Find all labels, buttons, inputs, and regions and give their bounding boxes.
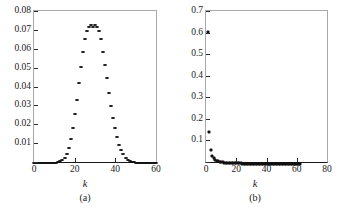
plot-frame-a: 0.010.020.030.040.050.060.070.08 0204060 (33, 10, 157, 163)
y-tick-mark (34, 105, 38, 106)
y-tick-label: 0.7 (191, 6, 203, 16)
x-axis-label-a: k (0, 178, 170, 189)
data-point (119, 149, 123, 151)
data-point (107, 92, 111, 94)
y-tick-label: 0.07 (14, 25, 31, 35)
x-tick-label: 0 (32, 165, 37, 175)
data-point (85, 30, 89, 32)
x-tick-label: 0 (204, 165, 209, 175)
data-point (208, 130, 211, 133)
data-point (121, 153, 125, 155)
y-tick-label: 0.2 (191, 114, 203, 124)
y-tick-label: 0.06 (14, 44, 31, 54)
x-tick-label: 60 (151, 165, 161, 175)
data-point (79, 66, 83, 68)
y-tick-label: 0.5 (191, 49, 203, 59)
data-point (101, 51, 105, 53)
y-tick-mark (34, 49, 38, 50)
data-point (99, 38, 103, 40)
y-tick-mark (34, 68, 38, 69)
x-tick-label: 40 (111, 165, 121, 175)
x-tick-label: 20 (70, 165, 80, 175)
y-tick-mark (206, 11, 210, 12)
data-point (60, 159, 64, 161)
data-point (77, 82, 81, 84)
y-tick-mark (34, 162, 38, 163)
data-point (81, 51, 85, 53)
data-point (111, 117, 115, 119)
data-point (115, 136, 119, 138)
y-tick-label: 0.03 (14, 101, 31, 111)
y-tick-mark (206, 76, 210, 77)
y-tick-mark (206, 97, 210, 98)
figure-two-panel-degree-distributions: 0.010.020.030.040.050.060.070.08 0204060… (0, 0, 340, 210)
panel-caption-a: (a) (0, 192, 170, 203)
data-point (65, 153, 69, 155)
y-tick-label: 0.1 (191, 136, 203, 146)
y-tick-mark (206, 119, 210, 120)
y-tick-label: 0.01 (14, 138, 31, 148)
data-point (69, 138, 73, 140)
x-tick-label: 60 (292, 165, 302, 175)
plot-area-b (206, 11, 327, 162)
panel-b: 0.10.20.30.40.50.60.7 020406080 k (b) (170, 0, 340, 210)
data-point (209, 148, 212, 151)
y-tick-mark (206, 54, 210, 55)
x-tick-mark (115, 158, 116, 162)
plot-area-a (34, 11, 156, 162)
y-tick-label: 0.6 (191, 28, 203, 38)
data-point (75, 99, 79, 101)
panel-a: 0.010.020.030.040.050.060.070.08 0204060… (0, 0, 170, 210)
y-tick-mark (34, 124, 38, 125)
data-point (63, 157, 67, 159)
y-tick-label: 0.3 (191, 93, 203, 103)
data-point (73, 113, 77, 115)
x-tick-label: 80 (322, 165, 332, 175)
y-tick-mark (206, 162, 210, 163)
y-tick-label: 0.04 (14, 82, 31, 92)
x-tick-mark (75, 158, 76, 162)
x-tick-mark (267, 158, 268, 162)
y-tick-label: 0.02 (14, 120, 31, 130)
y-tick-mark (206, 33, 210, 34)
y-tick-mark (206, 140, 210, 141)
y-tick-label: 0.4 (191, 71, 203, 81)
y-tick-mark (34, 30, 38, 31)
data-point (95, 26, 99, 28)
x-tick-label: 20 (232, 165, 242, 175)
data-point (71, 127, 75, 129)
data-point (83, 38, 87, 40)
data-point (97, 30, 101, 32)
x-axis-label-b: k (170, 178, 340, 189)
x-tick-mark (297, 158, 298, 162)
panel-caption-b: (b) (170, 192, 340, 203)
data-point (109, 105, 113, 107)
y-tick-mark (34, 143, 38, 144)
data-point (67, 147, 71, 149)
data-point (113, 127, 117, 129)
data-point (117, 144, 121, 146)
plot-frame-b: 0.10.20.30.40.50.60.7 020406080 (205, 10, 328, 163)
data-point (103, 64, 107, 66)
y-tick-mark (34, 11, 38, 12)
y-tick-label: 0.08 (14, 6, 31, 16)
data-point (105, 77, 109, 79)
y-tick-mark (34, 87, 38, 88)
y-tick-label: 0.05 (14, 63, 31, 73)
x-tick-mark (236, 158, 237, 162)
x-tick-label: 40 (262, 165, 272, 175)
